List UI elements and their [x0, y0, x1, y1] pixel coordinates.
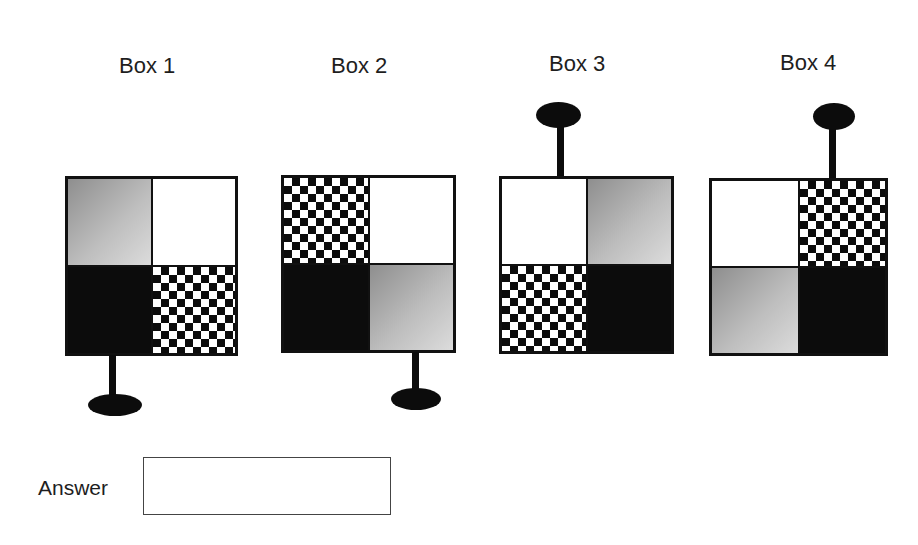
box-4-knob-icon: [813, 103, 855, 130]
box-3-knob-stem: [557, 120, 564, 178]
box-4-quadrant-top-right-checker: [799, 181, 886, 267]
box-3-quadrant-bottom-left-checker: [502, 265, 587, 351]
box-4-label: Box 4: [780, 51, 836, 75]
box-3-quadrant-bottom-right-black: [587, 265, 672, 351]
box-2-quadrant-top-left-checker: [284, 178, 369, 264]
box-2-quadrant-bottom-left-black: [284, 264, 369, 350]
box-1-quadrant-bottom-right-checker: [152, 266, 236, 353]
box-4: [709, 178, 888, 356]
box-4-quadrant-bottom-left-gradient: [712, 267, 799, 353]
box-3-knob-icon: [536, 102, 581, 128]
answer-label: Answer: [38, 476, 108, 500]
box-1-label: Box 1: [119, 54, 175, 78]
box-4-knob-stem: [829, 124, 836, 180]
box-2-knob-icon: [391, 388, 441, 410]
box-1-quadrant-top-right-white: [152, 179, 236, 266]
box-1-knob-icon: [88, 394, 142, 416]
box-3: [499, 176, 674, 354]
box-3-quadrant-top-right-gradient: [587, 179, 672, 265]
box-2-quadrant-bottom-right-gradient: [369, 264, 454, 350]
box-2-label: Box 2: [331, 54, 387, 78]
box-1-quadrant-bottom-left-black: [68, 266, 152, 353]
box-1-quadrant-top-left-gradient: [68, 179, 152, 266]
box-3-quadrant-top-left-white: [502, 179, 587, 265]
box-1: [65, 176, 238, 356]
box-2: [281, 175, 456, 353]
answer-input[interactable]: [143, 457, 391, 515]
box-3-label: Box 3: [549, 52, 605, 76]
box-1-knob-stem: [109, 355, 116, 397]
box-2-knob-stem: [412, 352, 419, 392]
box-4-quadrant-bottom-right-black: [799, 267, 886, 353]
box-4-quadrant-top-left-white: [712, 181, 799, 267]
box-2-quadrant-top-right-white: [369, 178, 454, 264]
